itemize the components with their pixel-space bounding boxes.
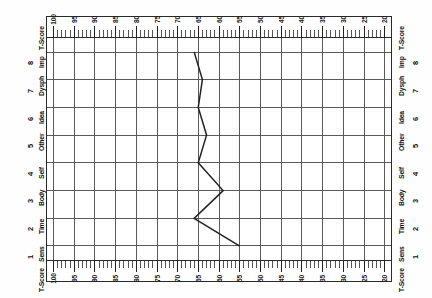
tick-label: 80 (132, 269, 139, 289)
tick-minor (144, 261, 145, 268)
tick-minor (65, 30, 66, 37)
tick-label: 30 (339, 10, 346, 30)
tick-minor (285, 30, 286, 37)
tick-minor (78, 30, 79, 37)
row-name-self: Self (38, 167, 45, 179)
tick-minor (297, 30, 298, 37)
tick-minor (169, 261, 170, 268)
tick-minor (326, 30, 327, 37)
tick-minor (82, 30, 83, 37)
tick-minor (119, 261, 120, 268)
tick-minor (347, 30, 348, 37)
tick-minor (210, 30, 211, 37)
tick-minor (99, 30, 100, 37)
tick-minor (65, 261, 66, 268)
tick-minor (285, 261, 286, 268)
tick-minor (318, 30, 319, 37)
row-number-1: 1 (26, 255, 35, 259)
tick-minor (214, 30, 215, 37)
tick-minor (132, 30, 133, 37)
row-number-3: 3 (26, 199, 35, 203)
tick-minor (70, 261, 71, 268)
tick-minor (293, 261, 294, 268)
tick-minor (264, 30, 265, 37)
tick-minor (82, 261, 83, 268)
tick-minor (86, 261, 87, 268)
row-name-other: Other (38, 134, 45, 151)
tick-minor (235, 261, 236, 268)
row-name-idea: Idea (38, 111, 45, 124)
tick-minor (140, 30, 141, 37)
row-number-right-3: 3 (411, 199, 420, 203)
row-number-6: 6 (26, 116, 35, 120)
tick-minor (248, 30, 249, 37)
tick-minor (161, 261, 162, 268)
tick-label: 55 (236, 269, 243, 289)
tick-minor (227, 261, 228, 268)
tick-label: 65 (194, 269, 201, 289)
tick-minor (194, 261, 195, 268)
tick-minor (231, 261, 232, 268)
row-number-right-4: 4 (411, 172, 420, 176)
tick-minor (347, 261, 348, 268)
tick-label: 75 (153, 10, 160, 30)
row-name-right-body: Body (398, 190, 405, 206)
tick-minor (339, 30, 340, 37)
tick-minor (314, 261, 315, 268)
tick-label: 45 (277, 269, 284, 289)
tick-label: 60 (215, 269, 222, 289)
tick-label: 70 (174, 10, 181, 30)
row-name-right-sens: Sens (398, 246, 405, 262)
tick-minor (132, 261, 133, 268)
row-name-imp: Imp (38, 57, 45, 69)
row-name-right-self: Self (398, 167, 405, 179)
chart-page: Imp8Dysph7Idea6Other5Self4Body3Time2Sens… (0, 0, 432, 298)
tick-minor (330, 261, 331, 268)
tick-minor (173, 261, 174, 268)
tick-minor (243, 30, 244, 37)
tick-minor (376, 30, 377, 37)
row-number-right-8: 8 (411, 61, 420, 65)
tick-minor (235, 30, 236, 37)
tick-label: 85 (112, 10, 119, 30)
tick-minor (103, 30, 104, 37)
tick-minor (368, 30, 369, 37)
tick-minor (119, 30, 120, 37)
tick-label: 20 (381, 269, 388, 289)
tick-minor (277, 261, 278, 268)
tick-minor (128, 30, 129, 37)
tick-minor (223, 30, 224, 37)
row-name-right-dysph: Dysph (398, 76, 405, 96)
tick-minor (90, 30, 91, 37)
tick-minor (99, 261, 100, 268)
tick-label: 70 (174, 269, 181, 289)
axis-title-bottom-right: T-Score (398, 268, 405, 292)
tick-minor (206, 30, 207, 37)
tick-label: 90 (91, 10, 98, 30)
tick-label: 95 (70, 269, 77, 289)
tick-minor (148, 261, 149, 268)
tick-minor (256, 30, 257, 37)
row-number-right-1: 1 (411, 255, 420, 259)
axis-title-bottom-left: T-Score (38, 268, 45, 292)
tick-label: 90 (91, 269, 98, 289)
tick-minor (86, 30, 87, 37)
tick-minor (165, 30, 166, 37)
tick-label: 80 (132, 10, 139, 30)
tick-label: 30 (339, 269, 346, 289)
tick-minor (272, 261, 273, 268)
tick-minor (310, 30, 311, 37)
tick-minor (128, 261, 129, 268)
tick-label: 35 (319, 10, 326, 30)
tick-label: 25 (360, 269, 367, 289)
tick-minor (359, 261, 360, 268)
tick-minor (272, 30, 273, 37)
tick-label: 45 (277, 10, 284, 30)
tick-minor (90, 261, 91, 268)
tick-minor (248, 261, 249, 268)
row-name-sens: Sens (38, 246, 45, 262)
row-number-2: 2 (26, 227, 35, 231)
tick-minor (161, 30, 162, 37)
tick-minor (210, 261, 211, 268)
tick-minor (144, 30, 145, 37)
